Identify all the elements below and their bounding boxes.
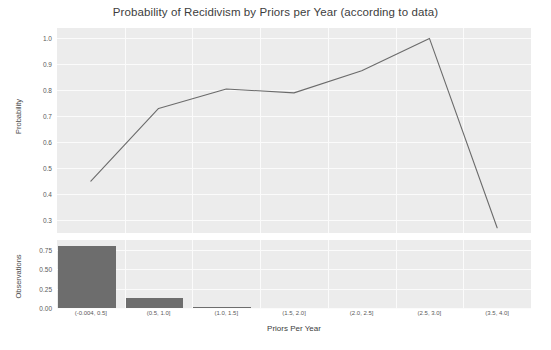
x-tick-labels: (-0.004, 0.5](0.5, 1.0](1.0, 1.5](1.5, 2… (57, 310, 531, 324)
x-tick-label: (1.5, 2.0] (282, 310, 306, 316)
x-tick-label: (3.5, 4.0] (485, 310, 509, 316)
x-tick-label: (-0.004, 0.5] (75, 310, 107, 316)
x-tick-label: (0.5, 1.0] (147, 310, 171, 316)
probability-plot-area (57, 28, 531, 233)
y-tick-label: 0.4 (43, 191, 52, 198)
y-tick-label: 0.6 (43, 139, 52, 146)
x-tick-label: (2.0, 2.5] (350, 310, 374, 316)
y-tick-label: 0.7 (43, 113, 52, 120)
y-tick-label: 0.25 (39, 285, 52, 292)
y-tick-label: 1.0 (43, 35, 52, 42)
x-axis-title: Priors Per Year (57, 324, 531, 333)
bar (58, 246, 116, 308)
y-tick-label: 0.9 (43, 61, 52, 68)
probability-line-series (57, 28, 531, 233)
y-tick-label: 0.3 (43, 217, 52, 224)
y-tick-label: 0.75 (39, 247, 52, 254)
observations-y-tick-labels: 0.750.500.250.00 (22, 240, 52, 308)
y-tick-label: 0.5 (43, 165, 52, 172)
probability-y-tick-labels: 1.00.90.80.70.60.50.40.3 (22, 28, 52, 233)
bar (193, 307, 251, 308)
probability-axis-title: Probability (14, 77, 23, 157)
x-tick-label: (2.5, 3.0] (418, 310, 442, 316)
bar (126, 298, 184, 308)
observations-plot-area (57, 240, 531, 308)
chart-title: Probability of Recidivism by Priors per … (0, 6, 551, 18)
y-tick-label: 0.8 (43, 87, 52, 94)
y-tick-label: 0.50 (39, 266, 52, 273)
chart-figure: Probability of Recidivism by Priors per … (0, 0, 551, 350)
observations-axis-title: Observations (14, 241, 23, 313)
y-tick-label: 0.00 (39, 305, 52, 312)
x-tick-label: (1.0, 1.5] (214, 310, 238, 316)
